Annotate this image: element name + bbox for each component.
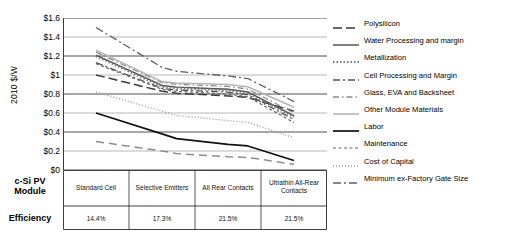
legend-label: Labor [364, 122, 383, 132]
table-cell-module: Ultrathin All-Rear Contacts [261, 179, 327, 195]
summary-table: c-Si PVModule Efficiency Standard Cell14… [63, 170, 327, 230]
legend-item: Glass, EVA and Backsheet [333, 85, 511, 102]
table-cell-efficiency: 21.5% [261, 215, 327, 223]
legend-item: Polysilicon [333, 16, 511, 33]
table-cell-module: All Rear Contacts [195, 184, 261, 192]
series-line [96, 75, 294, 111]
legend-swatch [333, 122, 359, 132]
series-line [96, 142, 294, 165]
line-chart-svg [63, 18, 327, 170]
legend-label: Polysilicon [364, 19, 400, 29]
legend-swatch [333, 36, 359, 46]
series-line [96, 113, 294, 161]
legend-label: Metallization [364, 53, 406, 63]
table-cell-efficiency: 14.4% [63, 215, 129, 223]
legend-swatch [333, 53, 359, 63]
row-header-efficiency: Efficiency [0, 213, 60, 223]
legend-item: Cost of Capital [333, 154, 511, 171]
y-axis-tick-label: $0.2 [16, 147, 60, 156]
legend-swatch [333, 105, 359, 115]
table-cell-module: Selective Emitters [129, 184, 195, 192]
y-axis-tick-label: $0.4 [16, 128, 60, 137]
chart-legend: PolysiliconWater Processing and marginMe… [333, 16, 511, 192]
y-axis-tick-label: $1.6 [16, 14, 60, 23]
legend-label: Cost of Capital [364, 157, 414, 167]
series-line [96, 64, 294, 123]
table-cell-efficiency: 17.3% [129, 215, 195, 223]
y-axis-tick-label: $0.6 [16, 109, 60, 118]
legend-item: Cell Processing and Margin [333, 68, 511, 85]
table-cell-efficiency: 21.5% [195, 215, 261, 223]
chart-figure: 2010 $/W $1.6$1.4$1.2$1$0.8$0.6$0.4$0.2$… [0, 0, 513, 248]
legend-label: Maintenance [364, 139, 407, 149]
legend-item: Minimum ex-Factory Gate Size [333, 171, 511, 188]
legend-label: Other Module Materials [364, 105, 443, 115]
y-axis-tick-label: $0.8 [16, 90, 60, 99]
series-line [96, 50, 294, 107]
legend-item: Other Module Materials [333, 102, 511, 119]
table-cell-module: Standard Cell [63, 184, 129, 192]
legend-label: Cell Processing and Margin [364, 71, 457, 81]
legend-label: Minimum ex-Factory Gate Size [364, 174, 468, 184]
legend-label: Water Processing and margin [364, 36, 464, 46]
legend-swatch [333, 174, 359, 184]
y-axis-tick-label: $0 [16, 166, 60, 175]
y-axis-tick-label: $1.2 [16, 52, 60, 61]
row-header-module-line2: Module [0, 186, 60, 196]
series-line [96, 63, 294, 120]
row-header-module: c-Si PVModule [0, 176, 60, 196]
y-axis-tick-label: $1 [16, 71, 60, 80]
legend-swatch [333, 139, 359, 149]
legend-label: Glass, EVA and Backsheet [364, 88, 454, 98]
legend-item: Water Processing and margin [333, 33, 511, 50]
legend-swatch [333, 71, 359, 81]
series-line [96, 92, 294, 138]
plot-area [63, 18, 327, 170]
legend-swatch [333, 157, 359, 167]
y-axis-tick-label: $1.4 [16, 33, 60, 42]
legend-item: Metallization [333, 50, 511, 67]
legend-swatch [333, 88, 359, 98]
row-header-module-line1: c-Si PV [0, 176, 60, 186]
legend-item: Maintenance [333, 136, 511, 153]
legend-item: Labor [333, 119, 511, 136]
y-axis-tick-labels: $1.6$1.4$1.2$1$0.8$0.6$0.4$0.2$0 [14, 0, 60, 248]
legend-swatch [333, 19, 359, 29]
